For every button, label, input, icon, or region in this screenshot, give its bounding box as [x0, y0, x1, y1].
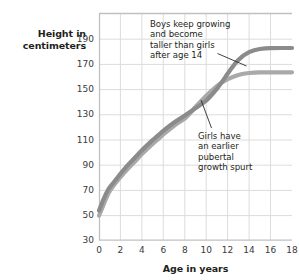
boys-annotation-line-1: Boys keep growing — [150, 19, 250, 29]
x-tick-label-0: 0 — [91, 245, 107, 255]
y-tick-label-30: 30 — [70, 235, 94, 245]
boys-annotation: Boys keep growing and become taller than… — [150, 19, 250, 61]
girls-annotation-line-1: Girls have — [198, 131, 276, 141]
girls-annotation-line-4: growth spurt — [198, 162, 276, 172]
x-tick-label-10: 10 — [198, 245, 214, 255]
x-tick-label-16: 16 — [263, 245, 279, 255]
x-tick-label-2: 2 — [112, 245, 128, 255]
x-tick-label-6: 6 — [155, 245, 171, 255]
girls-annotation: Girls have an earlier pubertal growth sp… — [198, 131, 276, 173]
y-tick-label-110: 110 — [70, 135, 94, 145]
y-tick-label-90: 90 — [70, 160, 94, 170]
girls-annotation-line-2: an earlier — [198, 141, 276, 151]
y-tick-label-70: 70 — [70, 185, 94, 195]
x-tick-label-12: 12 — [220, 245, 236, 255]
y-tick-label-130: 130 — [70, 109, 94, 119]
girls-annotation-line-3: pubertal — [198, 152, 276, 162]
boys-annotation-line-2: and become — [150, 29, 250, 39]
y-tick-label-170: 170 — [70, 59, 94, 69]
y-tick-label-50: 50 — [70, 210, 94, 220]
x-axis-title: Age in years — [99, 263, 292, 275]
y-tick-label-150: 150 — [70, 84, 94, 94]
boys-annotation-line-3: taller than girls — [150, 40, 250, 50]
x-tick-label-14: 14 — [241, 245, 257, 255]
y-tick-label-190: 190 — [70, 34, 94, 44]
boys-annotation-line-4: after age 14 — [150, 50, 250, 60]
growth-chart-figure: Height in centimeters Age in years 190 1… — [0, 0, 299, 280]
x-tick-label-18: 18 — [284, 245, 299, 255]
x-tick-label-8: 8 — [177, 245, 193, 255]
x-tick-label-4: 4 — [134, 245, 150, 255]
